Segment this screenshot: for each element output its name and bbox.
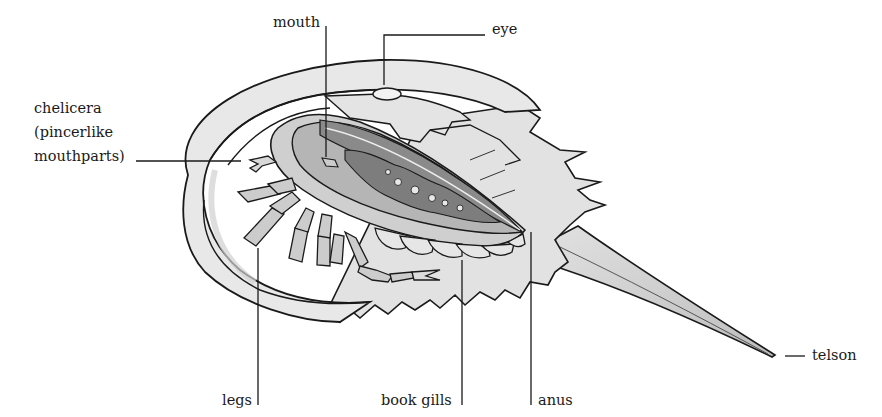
label-eye: eye <box>492 21 517 38</box>
label-telson: telson <box>812 347 857 364</box>
label-legs: legs <box>222 392 252 409</box>
label-anus: anus <box>538 392 573 409</box>
horseshoe-crab-diagram: mouth eye chelicera (pincerlike mouthpar… <box>0 0 882 417</box>
telson-shape <box>555 226 775 357</box>
label-book-gills: book gills <box>381 392 452 409</box>
horseshoe-crab-illustration <box>0 0 882 417</box>
eye-shape <box>373 88 401 100</box>
label-mouth: mouth <box>273 14 320 31</box>
label-chelicera-3: mouthparts) <box>34 148 125 165</box>
label-chelicera-2: (pincerlike <box>34 124 113 141</box>
label-chelicera-1: chelicera <box>34 100 102 117</box>
